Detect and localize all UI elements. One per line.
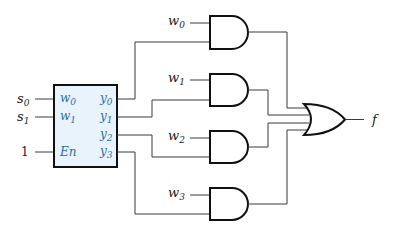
wire-and1-or — [248, 90, 309, 115]
wire-y1 — [117, 100, 210, 117]
wire-y3 — [117, 152, 210, 214]
wire-and2-or — [248, 123, 309, 147]
and-gate-0 — [210, 16, 248, 49]
label-w3: w3 — [168, 185, 185, 202]
label-s0: s0 — [17, 91, 30, 108]
label-s1: s1 — [17, 109, 29, 126]
wire-and3-or — [248, 130, 307, 204]
label-w2: w2 — [168, 128, 185, 145]
label-f: f — [371, 112, 379, 127]
circuit-diagram: s0 s1 1 w0 w1 En y0 y1 y2 y3 w0 w1 w2 w3… — [0, 0, 398, 234]
label-w1: w1 — [168, 70, 185, 87]
port-en: En — [59, 145, 77, 159]
and-gate-3 — [210, 188, 248, 220]
or-gate — [304, 104, 345, 135]
label-enable-const: 1 — [21, 145, 29, 159]
wire-and0-or — [248, 32, 307, 108]
wire-y0 — [117, 42, 210, 99]
label-w0: w0 — [168, 13, 185, 30]
and-gate-2 — [210, 131, 248, 163]
and-gate-1 — [210, 74, 248, 106]
